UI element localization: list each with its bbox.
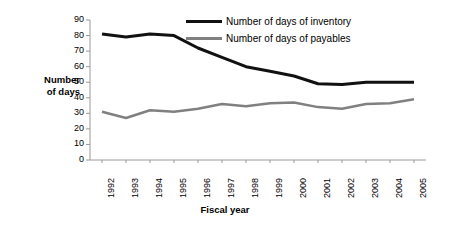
x-tick-label: 1996	[202, 178, 212, 198]
x-tick-label: 1992	[106, 178, 116, 198]
y-tick-label: 60	[62, 61, 84, 71]
y-tick-label: 10	[62, 138, 84, 148]
x-tick-label: 2005	[418, 178, 428, 198]
legend-item-inventory: Number of days of inventory	[186, 16, 351, 27]
x-tick-label: 1995	[178, 178, 188, 198]
legend-label: Number of days of payables	[226, 33, 351, 44]
y-tick-label: 70	[62, 45, 84, 55]
data-series	[102, 34, 414, 118]
y-tick-label: 30	[62, 107, 84, 117]
x-tick-label: 1997	[226, 178, 236, 198]
y-axis-title-line-2: of days	[6, 86, 80, 98]
y-tick-label: 80	[62, 30, 84, 40]
series-line-payables	[102, 99, 414, 118]
x-axis-title: Fiscal year	[0, 204, 450, 215]
x-tick-label: 2001	[322, 178, 332, 198]
y-axis-title: Number of days	[6, 74, 80, 98]
y-axis-title-line-1: Number	[6, 74, 80, 86]
line-chart: 0102030405060708090 19921993199419951996…	[0, 0, 450, 231]
legend-swatch-payables	[186, 37, 222, 40]
x-tick-label: 1998	[250, 178, 260, 198]
y-tick-label: 0	[62, 154, 84, 164]
x-tick-label: 1993	[130, 178, 140, 198]
y-tick-label: 90	[62, 14, 84, 24]
legend-swatch-inventory	[186, 20, 222, 23]
x-tick-label: 2002	[346, 178, 356, 198]
x-tick-label: 1994	[154, 178, 164, 198]
x-tick-label: 1999	[274, 178, 284, 198]
legend-label: Number of days of inventory	[226, 16, 351, 27]
x-tick-label: 2004	[394, 178, 404, 198]
x-tick-label: 2000	[298, 178, 308, 198]
legend-item-payables: Number of days of payables	[186, 33, 351, 44]
y-tick-label: 20	[62, 123, 84, 133]
x-tick-label: 2003	[370, 178, 380, 198]
